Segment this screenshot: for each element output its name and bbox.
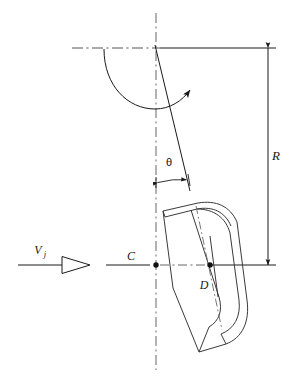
center-label: C xyxy=(127,249,136,263)
inclined-blade-axis xyxy=(155,45,190,191)
vane-inner-wall-left xyxy=(191,210,221,327)
vane-notch-right xyxy=(221,334,226,344)
angle-theta-dimension xyxy=(156,174,190,188)
vane-notch-left xyxy=(199,327,209,352)
diagram-canvas: R C D θ V j xyxy=(0,0,297,382)
blade-point-d-dot xyxy=(207,262,212,267)
vane-inner-wall-right xyxy=(197,209,239,334)
radius-label: R xyxy=(271,148,280,163)
jet-velocity-subscript: j xyxy=(43,249,47,259)
center-point-c-dot xyxy=(153,262,158,267)
angle-theta-arc xyxy=(158,179,187,182)
jet-velocity-symbol: V xyxy=(34,243,43,257)
rotation-arc xyxy=(104,49,190,109)
rotation-arrow xyxy=(104,49,190,109)
vane-rotation-diagram: R C D θ V j xyxy=(0,0,297,382)
blade-point-label: D xyxy=(199,278,209,292)
vane-internal-centerline xyxy=(196,206,222,330)
jet-velocity-label: V j xyxy=(34,243,46,259)
jet-velocity-arrowhead xyxy=(62,257,90,274)
angle-label: θ xyxy=(166,156,172,168)
